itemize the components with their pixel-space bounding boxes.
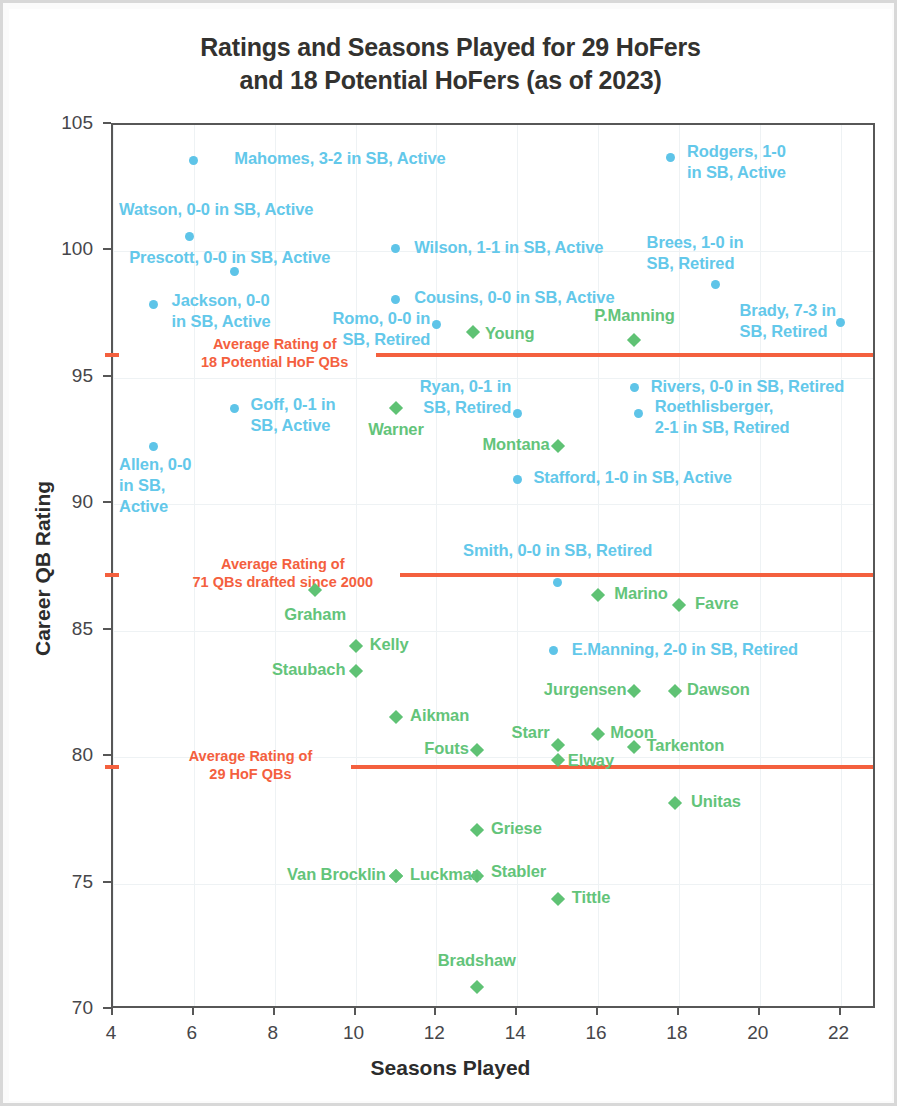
x-axis-label: Seasons Played xyxy=(9,1056,892,1080)
data-point-label: Tarkenton xyxy=(647,735,725,756)
data-point-label: Watson, 0-0 in SB, Active xyxy=(119,199,313,220)
data-point-label: Montana xyxy=(482,434,549,455)
reference-line-label-hof-avg: Average Rating of 29 HoF QBs xyxy=(189,747,313,783)
data-point-label: Staubach xyxy=(272,659,345,680)
grid-line-vertical xyxy=(841,125,842,1006)
reference-line-stub-hof-avg xyxy=(105,765,119,769)
y-tick-label: 105 xyxy=(47,112,93,134)
data-point-label: Jackson, 0-0 in SB, Active xyxy=(172,290,271,332)
reference-line-label-potential-hof-avg: Average Rating of 18 Potential HoF QBs xyxy=(201,335,348,371)
data-point-label: Bradshaw xyxy=(438,950,516,971)
reference-line-stub-potential-hof-avg xyxy=(105,353,119,357)
y-tick-mark xyxy=(103,1007,111,1009)
chart-page: Ratings and Seasons Played for 29 HoFers… xyxy=(0,0,897,1106)
data-point-label: Warner xyxy=(368,419,424,440)
plot-area: Average Rating of 18 Potential HoF QBsAv… xyxy=(111,123,875,1008)
data-point-label: Smith, 0-0 in SB, Retired xyxy=(463,540,652,561)
y-tick-label: 95 xyxy=(47,365,93,387)
data-point[interactable] xyxy=(149,442,158,451)
reference-line-potential-hof-avg xyxy=(376,353,873,357)
data-point-label: Ryan, 0-1 in SB, Retired xyxy=(420,376,511,418)
reference-line-stub-drafted-2000-avg xyxy=(105,573,119,577)
chart-title-line1: Ratings and Seasons Played for 29 HoFers xyxy=(200,33,701,61)
x-tick-mark xyxy=(839,1008,841,1015)
data-point-label: Kelly xyxy=(370,634,409,655)
data-point-label: Starr xyxy=(512,722,550,743)
data-point-label: Griese xyxy=(491,818,542,839)
data-point-label: Young xyxy=(485,323,535,344)
x-tick-mark xyxy=(596,1008,598,1015)
data-point-label: Prescott, 0-0 in SB, Active xyxy=(129,247,330,268)
data-point-label: Cousins, 0-0 in SB, Active xyxy=(414,287,614,308)
x-tick-mark xyxy=(758,1008,760,1015)
y-tick-mark xyxy=(103,248,111,250)
x-tick-label: 4 xyxy=(81,1022,141,1044)
data-point-label: Graham xyxy=(284,604,346,625)
data-point[interactable] xyxy=(230,404,239,413)
x-tick-mark xyxy=(273,1008,275,1015)
y-tick-label: 75 xyxy=(47,871,93,893)
y-tick-label: 80 xyxy=(47,744,93,766)
chart-canvas: Ratings and Seasons Played for 29 HoFers… xyxy=(9,9,892,1101)
data-point-label: P.Manning xyxy=(594,305,674,326)
data-point-label: Luckman xyxy=(410,864,482,885)
grid-line-horizontal xyxy=(113,884,873,885)
data-point-label: Unitas xyxy=(691,791,741,812)
data-point-label: Jurgensen xyxy=(544,679,627,700)
data-point[interactable] xyxy=(836,318,845,327)
x-tick-mark xyxy=(515,1008,517,1015)
data-point-label: Van Brocklin xyxy=(287,864,386,885)
grid-line-horizontal xyxy=(113,631,873,632)
chart-title: Ratings and Seasons Played for 29 HoFers… xyxy=(9,31,892,97)
y-tick-label: 100 xyxy=(47,238,93,260)
data-point-label: Tittle xyxy=(572,887,611,908)
y-tick-mark xyxy=(103,881,111,883)
x-tick-label: 6 xyxy=(162,1022,222,1044)
data-point[interactable] xyxy=(513,475,522,484)
x-tick-mark xyxy=(111,1008,113,1015)
data-point-label: Allen, 0-0 in SB, Active xyxy=(119,454,191,517)
y-tick-label: 70 xyxy=(47,997,93,1019)
reference-line-label-drafted-2000-avg: Average Rating of 71 QBs drafted since 2… xyxy=(192,555,373,591)
y-tick-label: 90 xyxy=(47,491,93,513)
data-point[interactable] xyxy=(149,300,158,309)
y-tick-mark xyxy=(103,628,111,630)
x-tick-label: 20 xyxy=(728,1022,788,1044)
data-point-label: Mahomes, 3-2 in SB, Active xyxy=(234,148,445,169)
data-point[interactable] xyxy=(513,409,522,418)
reference-line-drafted-2000-avg xyxy=(400,573,873,577)
data-point-label: Wilson, 1-1 in SB, Active xyxy=(414,237,603,258)
data-point-label: Elway xyxy=(568,750,614,771)
chart-title-line2: and 18 Potential HoFers (as of 2023) xyxy=(9,64,892,97)
x-tick-mark xyxy=(677,1008,679,1015)
y-tick-mark xyxy=(103,754,111,756)
grid-line-vertical xyxy=(113,125,114,1006)
data-point-label: Dawson xyxy=(687,679,750,700)
x-tick-label: 22 xyxy=(809,1022,869,1044)
x-tick-label: 14 xyxy=(485,1022,545,1044)
x-tick-label: 8 xyxy=(243,1022,303,1044)
data-point-label: Stafford, 1-0 in SB, Active xyxy=(533,467,731,488)
data-point-label: Fouts xyxy=(424,738,468,759)
data-point[interactable] xyxy=(230,267,239,276)
data-point[interactable] xyxy=(634,409,643,418)
data-point-label: Rodgers, 1-0 in SB, Active xyxy=(687,141,786,183)
data-point-label: Brees, 1-0 in SB, Retired xyxy=(647,232,744,274)
x-tick-mark xyxy=(192,1008,194,1015)
data-point-label: Roethlisberger, 2-1 in SB, Retired xyxy=(655,396,790,438)
data-point-label: Goff, 0-1 in SB, Active xyxy=(250,394,335,436)
data-point[interactable] xyxy=(711,280,720,289)
grid-line-vertical xyxy=(760,125,761,1006)
data-point[interactable] xyxy=(185,232,194,241)
data-point-label: Marino xyxy=(614,583,667,604)
grid-line-horizontal xyxy=(113,504,873,505)
x-tick-label: 18 xyxy=(647,1022,707,1044)
y-tick-label: 85 xyxy=(47,618,93,640)
x-tick-mark xyxy=(354,1008,356,1015)
data-point-label: Romo, 0-0 in SB, Retired xyxy=(333,308,431,350)
x-tick-label: 16 xyxy=(566,1022,626,1044)
y-tick-mark xyxy=(103,501,111,503)
x-tick-label: 12 xyxy=(404,1022,464,1044)
y-tick-mark xyxy=(103,122,111,124)
x-tick-mark xyxy=(434,1008,436,1015)
